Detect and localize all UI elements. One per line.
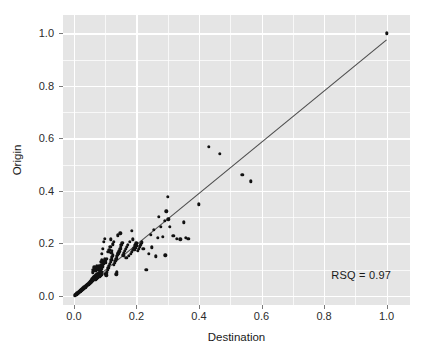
data-point bbox=[385, 32, 388, 35]
data-point bbox=[147, 252, 150, 255]
data-point bbox=[218, 152, 221, 155]
data-point bbox=[163, 219, 166, 222]
data-point bbox=[130, 229, 133, 232]
data-point bbox=[119, 232, 122, 235]
data-point bbox=[145, 268, 148, 271]
y-tick-mark bbox=[59, 296, 63, 297]
x-tick-label: 0.4 bbox=[174, 310, 224, 322]
x-tick-label: 0.2 bbox=[111, 310, 161, 322]
y-tick-mark bbox=[59, 33, 63, 34]
y-tick-mark bbox=[59, 243, 63, 244]
data-point bbox=[152, 228, 155, 231]
data-point bbox=[105, 257, 108, 260]
plot-panel: RSQ = 0.97 bbox=[63, 15, 410, 305]
x-tick-mark bbox=[387, 305, 388, 309]
x-axis-label: Destination bbox=[63, 331, 410, 343]
data-point bbox=[187, 237, 190, 240]
data-point bbox=[104, 274, 107, 277]
data-point bbox=[156, 236, 159, 239]
x-tick-label: 0.6 bbox=[237, 310, 287, 322]
data-point bbox=[240, 173, 243, 176]
data-point bbox=[128, 240, 131, 243]
data-point bbox=[197, 203, 200, 206]
data-point bbox=[103, 237, 106, 240]
y-tick-label: 0.6 bbox=[14, 132, 54, 144]
x-tick-mark bbox=[262, 305, 263, 309]
data-point bbox=[168, 225, 171, 228]
data-point bbox=[249, 180, 252, 183]
data-point bbox=[159, 225, 162, 228]
y-tick-label: 1.0 bbox=[14, 27, 54, 39]
data-point bbox=[207, 145, 210, 148]
x-tick-mark bbox=[324, 305, 325, 309]
data-point bbox=[121, 241, 124, 244]
data-point bbox=[167, 217, 170, 220]
data-point bbox=[102, 240, 105, 243]
data-point bbox=[182, 221, 185, 224]
data-point bbox=[101, 247, 104, 250]
data-point bbox=[142, 247, 145, 250]
scatter-plot-figure: RSQ = 0.97 0.00.20.40.60.81.00.00.20.40.… bbox=[0, 0, 426, 356]
y-tick-label: 0.0 bbox=[14, 290, 54, 302]
y-tick-mark bbox=[59, 138, 63, 139]
data-point bbox=[165, 210, 168, 213]
data-point bbox=[179, 238, 182, 241]
y-tick-label: 0.8 bbox=[14, 80, 54, 92]
data-point bbox=[126, 243, 129, 246]
data-point bbox=[140, 241, 143, 244]
data-point bbox=[166, 195, 169, 198]
x-tick-label: 1.0 bbox=[362, 310, 412, 322]
rsq-annotation: RSQ = 0.97 bbox=[331, 269, 364, 284]
data-point bbox=[157, 215, 160, 218]
data-point bbox=[100, 252, 103, 255]
data-point bbox=[149, 233, 152, 236]
y-tick-mark bbox=[59, 191, 63, 192]
data-point bbox=[131, 238, 134, 241]
y-tick-label: 0.4 bbox=[14, 185, 54, 197]
x-tick-label: 0.0 bbox=[49, 310, 99, 322]
data-point bbox=[154, 255, 157, 258]
x-tick-mark bbox=[199, 305, 200, 309]
data-point bbox=[150, 246, 153, 249]
x-tick-label: 0.8 bbox=[299, 310, 349, 322]
data-point bbox=[161, 235, 164, 238]
y-axis-label: Origin bbox=[11, 145, 23, 176]
y-tick-label: 0.2 bbox=[14, 237, 54, 249]
data-point bbox=[110, 249, 113, 252]
y-tick-mark bbox=[59, 86, 63, 87]
x-tick-mark bbox=[74, 305, 75, 309]
data-point bbox=[115, 270, 118, 273]
data-points bbox=[63, 15, 410, 305]
data-point bbox=[112, 240, 115, 243]
x-tick-mark bbox=[136, 305, 137, 309]
data-point bbox=[164, 253, 167, 256]
